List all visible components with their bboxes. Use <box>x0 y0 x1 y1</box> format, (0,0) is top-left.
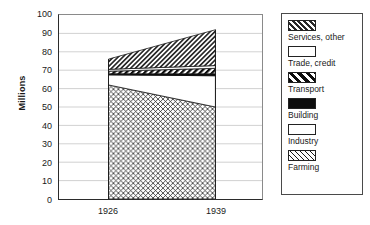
stacked-area-chart: Millions 0 10 20 30 40 50 60 70 80 90 10… <box>0 0 370 225</box>
legend: Services, other Trade, credit Transport … <box>281 13 363 195</box>
legend-swatch-building <box>288 98 316 109</box>
y-tick-50: 50 <box>22 103 52 112</box>
y-tick-70: 70 <box>22 66 52 75</box>
legend-item-industry: Industry <box>288 124 357 147</box>
stacked-bands <box>109 30 216 199</box>
y-tick-20: 20 <box>22 159 52 168</box>
x-tick-1926: 1926 <box>88 207 128 216</box>
y-tick-40: 40 <box>22 122 52 131</box>
legend-swatch-industry <box>288 124 316 135</box>
legend-label-transport: Transport <box>288 84 357 95</box>
y-tick-0: 0 <box>22 196 52 205</box>
y-tick-10: 10 <box>22 177 52 186</box>
y-tick-80: 80 <box>22 48 52 57</box>
legend-swatch-services-other <box>288 20 316 31</box>
plot-area <box>58 14 263 200</box>
legend-item-services-other: Services, other <box>288 20 357 43</box>
x-tick-1939: 1939 <box>196 207 236 216</box>
y-tick-100: 100 <box>22 10 52 19</box>
legend-label-trade-credit: Trade, credit <box>288 58 357 69</box>
legend-label-services-other: Services, other <box>288 32 357 43</box>
legend-label-industry: Industry <box>288 136 357 147</box>
legend-swatch-transport <box>288 72 316 83</box>
legend-label-building: Building <box>288 110 357 121</box>
y-tick-90: 90 <box>22 29 52 38</box>
legend-swatch-farming <box>288 150 316 161</box>
legend-item-trade-credit: Trade, credit <box>288 46 357 69</box>
legend-label-farming: Farming <box>288 162 357 173</box>
legend-swatch-trade-credit <box>288 46 316 57</box>
y-tick-60: 60 <box>22 85 52 94</box>
y-tick-30: 30 <box>22 140 52 149</box>
legend-item-transport: Transport <box>288 72 357 95</box>
band-services-other <box>109 30 216 70</box>
legend-item-farming: Farming <box>288 150 357 173</box>
plot-svg <box>59 15 262 199</box>
legend-item-building: Building <box>288 98 357 121</box>
